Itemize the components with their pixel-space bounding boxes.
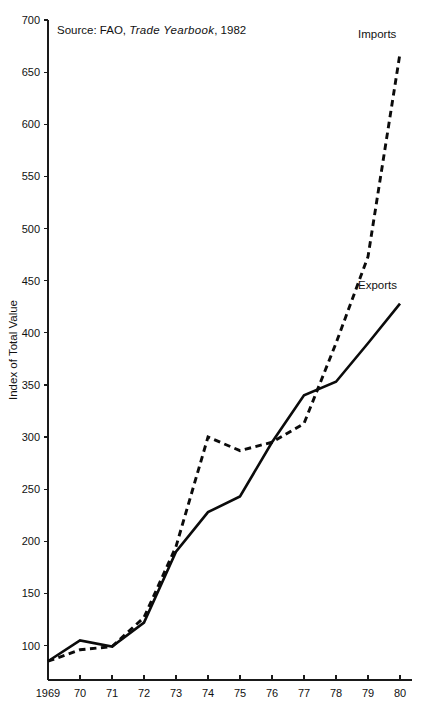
- y-tick-label: 400: [22, 327, 40, 339]
- x-tick-label: 80: [394, 687, 406, 699]
- series-group: [48, 53, 400, 661]
- x-tick-label: 74: [202, 687, 214, 699]
- y-tick-label: 150: [22, 587, 40, 599]
- x-tick-label: 79: [362, 687, 374, 699]
- y-tick-label: 650: [22, 66, 40, 78]
- y-tick-label: 200: [22, 535, 40, 547]
- y-tick-label: 550: [22, 170, 40, 182]
- y-tick-label: 300: [22, 431, 40, 443]
- y-tick-label: 250: [22, 483, 40, 495]
- x-tick-label: 75: [234, 687, 246, 699]
- x-tick-group: 19697071727374757677787980: [36, 675, 406, 699]
- x-tick-label: 72: [138, 687, 150, 699]
- series-line-exports: [48, 304, 400, 662]
- x-tick-label: 70: [74, 687, 86, 699]
- line-chart: 100150200250300350400450500550600650700 …: [0, 0, 421, 711]
- y-tick-label: 500: [22, 223, 40, 235]
- series-line-imports: [48, 53, 400, 661]
- y-tick-label: 600: [22, 118, 40, 130]
- x-tick-label: 73: [170, 687, 182, 699]
- x-tick-label: 76: [266, 687, 278, 699]
- x-tick-label: 77: [298, 687, 310, 699]
- series-label-imports: Imports: [358, 28, 397, 40]
- y-tick-label: 700: [22, 14, 40, 26]
- y-tick-label: 100: [22, 640, 40, 652]
- y-tick-label: 450: [22, 275, 40, 287]
- chart-container: Source: FAO, Trade Yearbook, 1982 100150…: [0, 0, 421, 711]
- y-axis-title: Index of Total Value: [7, 300, 19, 400]
- y-tick-group: 100150200250300350400450500550600650700: [22, 14, 48, 652]
- x-tick-label: 71: [106, 687, 118, 699]
- x-tick-label: 1969: [36, 687, 60, 699]
- series-label-group: ImportsExports: [358, 28, 397, 290]
- x-tick-label: 78: [330, 687, 342, 699]
- series-label-exports: Exports: [358, 279, 397, 291]
- y-tick-label: 350: [22, 379, 40, 391]
